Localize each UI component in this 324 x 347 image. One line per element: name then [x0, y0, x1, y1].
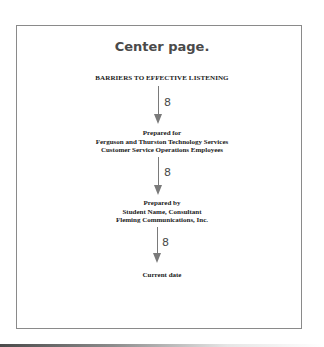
document-title: BARRIERS TO EFFECTIVE LISTENING: [0, 74, 324, 83]
prepared-for-audience: Customer Service Operations Employees: [0, 146, 324, 155]
prepared-for-label: Prepared for: [0, 129, 324, 138]
spacing-label: 8: [164, 166, 171, 179]
center-page-heading: Center page.: [0, 39, 324, 54]
spacing-label: 8: [162, 236, 169, 249]
document-date: Current date: [0, 271, 324, 280]
prepared-by-company: Fleming Communications, Inc.: [0, 216, 324, 225]
prepared-for-organization: Ferguson and Thurston Technology Service…: [0, 138, 324, 147]
prepared-by-name: Student Name, Consultant: [0, 208, 324, 217]
prepared-by-label: Prepared by: [0, 199, 324, 208]
spacing-label: 8: [164, 96, 171, 109]
